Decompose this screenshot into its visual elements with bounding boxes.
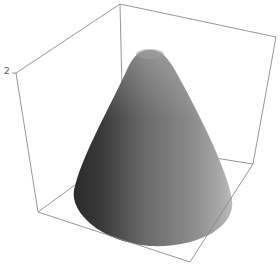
paraboloid-surface [74,49,233,246]
z-axis-tick-label: 2 [4,66,10,76]
surface-plot [0,0,280,280]
